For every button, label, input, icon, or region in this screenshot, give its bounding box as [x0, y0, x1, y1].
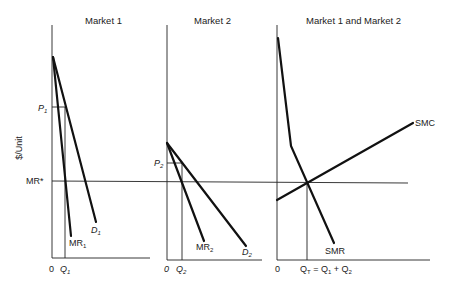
origin-label: 0 [49, 264, 54, 274]
d2-label: D2 [242, 247, 253, 258]
panel-market-1: Market 1 P1 D1 MR1 0 Q1 [38, 15, 150, 275]
panel-combined-market: Market 1 and Market 2 SMC SMR 0 QT = Q1 … [275, 15, 436, 275]
panel-market-2: Market 2 P2 D2 MR2 0 Q2 [154, 15, 262, 275]
panel-title: Market 1 and Market 2 [306, 15, 401, 26]
panel-title: Market 1 [85, 15, 122, 26]
d1-label: D1 [91, 225, 101, 236]
smr-label: SMR [325, 246, 346, 256]
origin-label: 0 [164, 264, 169, 274]
quantity-label: Q2 [176, 264, 187, 275]
mr2-label: MR2 [196, 242, 214, 253]
third-degree-price-discrimination-diagram: $/Unit MR* Market 1 P1 D1 MR1 0 Q1 Marke… [0, 0, 450, 287]
mr1-label: MR1 [69, 238, 87, 249]
marginal-revenue-curve-mr1 [53, 57, 71, 236]
mr-star-line [52, 181, 408, 183]
marginal-revenue-curve-mr2 [167, 143, 204, 241]
demand-curve-d2 [167, 143, 246, 246]
quantity-label: Q1 [60, 264, 70, 275]
price-label: P2 [154, 158, 164, 169]
demand-curve-d1 [53, 57, 96, 222]
origin-label: 0 [275, 264, 280, 274]
summed-marginal-revenue-curve [278, 38, 334, 243]
mr-star-label: MR* [26, 176, 44, 186]
smc-label: SMC [415, 118, 436, 128]
quantity-label: QT = Q1 + Q2 [300, 264, 353, 275]
panel-title: Market 2 [194, 15, 231, 26]
price-label: P1 [38, 103, 47, 114]
y-axis-label: $/Unit [14, 136, 24, 160]
